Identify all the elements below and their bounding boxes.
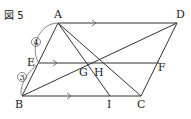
point-label-D: D	[176, 8, 185, 21]
point-label-G: G	[79, 66, 88, 79]
point-label-E: E	[27, 56, 35, 69]
point-label-H: H	[94, 66, 104, 79]
ratio-AE: 4	[34, 38, 39, 47]
point-label-F: F	[158, 61, 166, 74]
segment-AC	[58, 23, 141, 96]
segment-AI	[58, 23, 110, 96]
point-label-A: A	[53, 8, 63, 21]
segment-DC	[141, 23, 177, 96]
geometry-figure: 図 5 4 3 A D B C E F G H I	[0, 0, 191, 119]
figure-title: 図 5	[4, 10, 24, 21]
ratio-EB: 3	[20, 73, 25, 82]
point-label-C: C	[137, 98, 145, 111]
point-label-B: B	[15, 98, 23, 111]
point-label-I: I	[107, 98, 111, 111]
